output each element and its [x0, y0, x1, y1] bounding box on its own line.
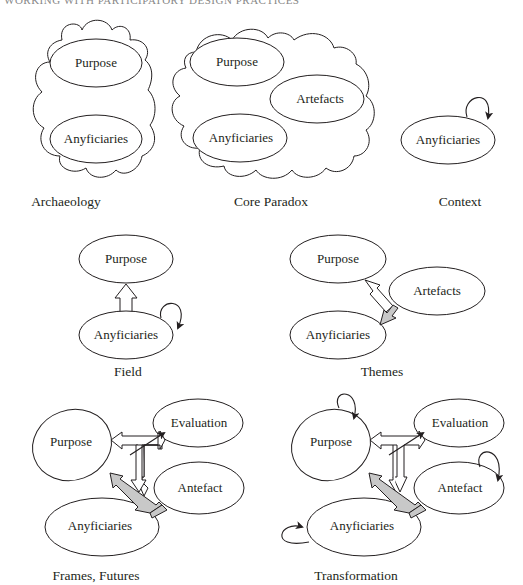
diagram-transformation: Purpose Evaluation Antefact Anyficiaries…: [281, 394, 504, 583]
node-label-anyficiaries: Anyficiaries: [68, 518, 132, 533]
diagram-core-paradox: Purpose Artefacts Anyficiaries Context C…: [172, 29, 374, 209]
node-label-anyficiaries: Anyficiaries: [416, 132, 480, 147]
node-label-antefact: Antefact: [178, 480, 223, 495]
caption-frames-futures: Frames, Futures: [53, 568, 140, 583]
node-label-purpose: Purpose: [75, 55, 117, 70]
node-label-evaluation: Evaluation: [171, 415, 228, 430]
caption-context: Context: [439, 194, 482, 209]
node-label-anyficiaries: Anyficiaries: [94, 327, 158, 342]
diagram-field: Purpose Anyficiaries Field: [79, 235, 181, 379]
hollow-arrow-icon: [115, 284, 137, 312]
node-label-anyficiaries: Anyficiaries: [330, 518, 394, 533]
node-label-anyficiaries: Anyficiaries: [209, 130, 273, 145]
node-label-artefacts: Artefacts: [296, 91, 344, 106]
node-label-evaluation: Evaluation: [432, 415, 489, 430]
diagram-frames-futures: Purpose Evaluation Antefact Anyficiaries…: [22, 398, 244, 583]
node-label-artefacts: Artefacts: [413, 283, 461, 298]
node-label-purpose: Purpose: [310, 434, 352, 449]
node-label-purpose: Purpose: [50, 434, 92, 449]
node-label-anyficiaries: Anyficiaries: [306, 327, 370, 342]
hollow-arrow-icon: [365, 280, 393, 312]
diagram-themes: Purpose Artefacts Anyficiaries Themes: [290, 235, 485, 379]
diagram-archaeology: Purpose Anyficiaries Archaeology: [31, 20, 155, 209]
diagram-context: Anyficiaries Context: [401, 97, 495, 209]
node-label-purpose: Purpose: [105, 251, 147, 266]
node-label-anyficiaries: Anyficiaries: [64, 131, 128, 146]
caption-transformation: Transformation: [314, 568, 398, 583]
caption-themes: Themes: [361, 364, 404, 379]
hollow-arrow-icon: [389, 445, 396, 492]
diagram-canvas: Purpose Anyficiaries Archaeology Purpose…: [0, 0, 523, 585]
caption-archaeology: Archaeology: [31, 194, 101, 209]
caption-field: Field: [114, 364, 142, 379]
self-loop-arrow-icon: [282, 526, 309, 543]
node-label-antefact: Antefact: [438, 480, 483, 495]
self-loop-arrow-icon: [466, 97, 489, 118]
caption-core-paradox: Core Paradox: [234, 194, 308, 209]
node-label-purpose: Purpose: [317, 251, 359, 266]
node-label-purpose: Purpose: [216, 54, 258, 69]
